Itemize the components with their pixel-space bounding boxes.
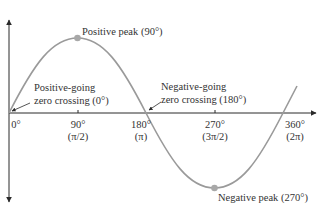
tick-label-360-rad: (2π) <box>286 131 304 143</box>
positive-peak-label: Positive peak (90°) <box>82 26 163 38</box>
tick-label-0-deg: 0° <box>11 119 20 130</box>
tick-label-360-deg: 360° <box>285 119 305 130</box>
tick-label-270-deg: 270° <box>205 119 225 130</box>
neg-zero-label-line1: Negative-going <box>161 81 227 92</box>
neg-zero-label-line2: zero crossing (180°) <box>161 94 247 106</box>
pos-zero-label-line2: zero crossing (0°) <box>34 95 109 107</box>
neg-zero-pointer-arrow <box>149 102 161 110</box>
positive-peak-dot <box>74 35 81 42</box>
negative-peak-dot <box>211 185 218 192</box>
pos-zero-label-line1: Positive-going <box>34 82 96 93</box>
tick-label-270-rad: (3π/2) <box>202 131 228 143</box>
tick-label-90-rad: (π/2) <box>68 131 89 143</box>
tick-label-90-deg: 90° <box>71 119 86 130</box>
negative-peak-label: Negative peak (270°) <box>218 192 308 204</box>
pos-zero-pointer-arrow <box>12 103 30 111</box>
tick-label-180-deg: 180° <box>131 119 151 130</box>
tick-label-180-rad: (π) <box>135 131 148 143</box>
sine-wave-diagram: Positive peak (90°) Positive-going zero … <box>0 0 327 206</box>
